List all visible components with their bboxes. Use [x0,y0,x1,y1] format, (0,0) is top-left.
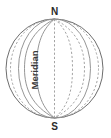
meridian-diagram: N Meridian S [0,0,111,138]
north-pole-label: N [51,6,58,17]
south-pole-label: S [51,121,58,132]
meridian-back-1 [55,19,73,118]
sphere-figure-svg: N Meridian S [0,0,111,138]
meridian-text-label: Meridian [29,50,40,89]
